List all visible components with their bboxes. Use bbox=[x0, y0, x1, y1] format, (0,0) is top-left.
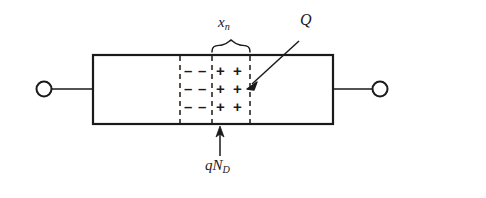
device-body-rect bbox=[93, 55, 333, 124]
pn-junction-figure: – – – – – – + + + + + + xn Q qND bbox=[0, 0, 486, 198]
diagram-canvas bbox=[0, 0, 486, 198]
positive-charge-sign: + bbox=[216, 81, 225, 96]
doping-charge-label: qND bbox=[205, 158, 230, 175]
positive-charge-sign: + bbox=[216, 63, 225, 78]
positive-charge-sign: + bbox=[216, 99, 225, 114]
negative-charge-sign: – bbox=[184, 99, 192, 114]
negative-charge-sign: – bbox=[198, 81, 206, 96]
depletion-width-label: xn bbox=[218, 15, 230, 32]
depletion-width-symbol: x bbox=[218, 14, 225, 30]
doping-charge-subscript: D bbox=[223, 164, 230, 175]
left-terminal-circle bbox=[37, 82, 52, 97]
negative-charge-sign: – bbox=[198, 99, 206, 114]
positive-charge-sign: + bbox=[233, 99, 242, 114]
depletion-width-subscript: n bbox=[225, 21, 230, 32]
negative-charge-sign: – bbox=[184, 63, 192, 78]
charge-label: Q bbox=[300, 12, 312, 28]
brace-xn bbox=[212, 40, 250, 52]
charge-symbol: Q bbox=[300, 11, 312, 28]
right-terminal-circle bbox=[373, 82, 388, 97]
negative-charge-sign: – bbox=[198, 63, 206, 78]
negative-charge-sign: – bbox=[184, 81, 192, 96]
qnd-pointer-arrow bbox=[216, 126, 224, 156]
positive-charge-sign: + bbox=[233, 63, 242, 78]
positive-charge-sign: + bbox=[233, 81, 242, 96]
doping-charge-symbol: qN bbox=[205, 157, 223, 173]
